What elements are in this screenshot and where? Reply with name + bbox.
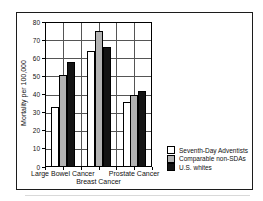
legend-item-comparable-non-sdas: Comparable non-SDAs: [167, 155, 248, 164]
legend-swatch-u-s-whites: [167, 163, 175, 171]
y-tick-label: 10: [24, 145, 40, 152]
y-axis-tick: [42, 130, 46, 131]
y-axis-tick: [42, 58, 46, 59]
y-axis-tick: [42, 40, 46, 41]
scan-artifact-line: [25, 195, 250, 196]
bar-chart: Mortality per 100,000 01020304050607080L…: [0, 0, 263, 201]
y-tick-label: 60: [24, 55, 40, 62]
legend-swatch-seventh-day-adventists: [167, 146, 175, 154]
y-axis-tick: [42, 76, 46, 77]
legend-label-seventh-day-adventists: Seventh-Day Adventists: [179, 147, 248, 154]
y-axis-tick: [42, 94, 46, 95]
bar-u-s-whites-large-bowel-cancer: [67, 62, 75, 167]
y-tick-label: 80: [24, 19, 40, 26]
bar-u-s-whites-breast-cancer: [103, 47, 111, 167]
legend-swatch-comparable-non-sdas: [167, 155, 175, 163]
y-tick-label: 70: [24, 37, 40, 44]
x-category-label-breast-cancer: Breast Cancer: [76, 178, 121, 186]
y-axis-tick: [42, 22, 46, 23]
legend: Seventh-Day AdventistsComparable non-SDA…: [167, 146, 248, 172]
legend-label-u-s-whites: U.S. whites: [179, 164, 212, 171]
x-category-label-large-bowel-cancer: Large Bowel Cancer: [31, 170, 94, 178]
y-axis-tick: [42, 148, 46, 149]
y-tick-label: 50: [24, 73, 40, 80]
y-axis-tick: [42, 112, 46, 113]
y-tick-label: 20: [24, 127, 40, 134]
bar-u-s-whites-prostate-cancer: [138, 91, 146, 167]
x-category-label-prostate-cancer: Prostate Cancer: [109, 170, 160, 178]
legend-item-u-s-whites: U.S. whites: [167, 163, 248, 172]
legend-label-comparable-non-sdas: Comparable non-SDAs: [179, 155, 246, 162]
legend-item-seventh-day-adventists: Seventh-Day Adventists: [167, 146, 248, 155]
y-tick-label: 30: [24, 109, 40, 116]
y-tick-label: 40: [24, 91, 40, 98]
x-axis-tick: [99, 167, 100, 170]
